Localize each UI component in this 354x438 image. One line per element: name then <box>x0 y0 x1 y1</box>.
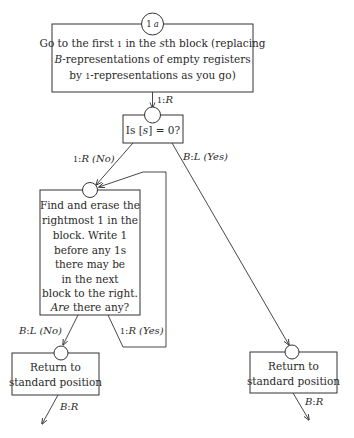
edge-label-decision-no: 1:R(No) <box>73 153 115 164</box>
box-top-line-3: by 1-representations as you go) <box>69 69 236 81</box>
loop-question: Are there any? <box>50 301 130 313</box>
svg-text:block. Write 1: block. Write 1 <box>53 229 127 241</box>
edge-loop-no <box>63 315 78 345</box>
svg-text:standard position: standard position <box>247 375 340 387</box>
decision-node <box>145 107 161 123</box>
svg-text:Return to: Return to <box>30 361 81 373</box>
box-top-line-2: B-representations of empty registers <box>53 53 250 65</box>
edge-exit-left <box>42 395 58 424</box>
edge-label-top-to-decision: 1:R <box>157 94 173 105</box>
svg-text:block to the right.: block to the right. <box>42 287 138 299</box>
svg-text:there may be: there may be <box>55 258 125 270</box>
edge-label-decision-yes: B:L(Yes) <box>182 151 228 162</box>
svg-text:Find and erase the: Find and erase the <box>40 199 140 211</box>
flowchart: Go to the first 1 in the sth block (repl… <box>0 0 354 438</box>
edge-label-exit-left: B:R <box>59 401 79 412</box>
loop-node <box>83 183 98 198</box>
return-left-node <box>54 346 68 360</box>
box-find-and-erase: Find and erase the rightmost 1 in the bl… <box>40 183 140 316</box>
svg-text:Is [s] = 0?: Is [s] = 0? <box>126 124 181 136</box>
decision-box-is-s-zero: Is [s] = 0? <box>123 107 183 143</box>
return-right-node <box>285 345 299 359</box>
svg-text:rightmost 1 in the: rightmost 1 in the <box>42 214 138 226</box>
svg-text:before any 1s: before any 1s <box>54 244 126 256</box>
box-top-line-1: Go to the first 1 in the sth block (repl… <box>40 37 266 49</box>
box-return-standard-left: Return to standard position <box>9 346 102 395</box>
edge-label-exit-right: B:R <box>304 396 324 407</box>
svg-text:standard position: standard position <box>9 376 102 388</box>
edge-decision-no <box>96 143 133 185</box>
svg-text:Return to: Return to <box>268 360 319 372</box>
edge-decision-yes <box>172 143 289 345</box>
edge-label-loop-yes: 1:R(Yes) <box>120 325 164 336</box>
svg-text:in the next: in the next <box>61 273 119 285</box>
box-return-standard-right: Return to standard position <box>247 345 340 393</box>
start-node-1a: 1a <box>142 13 164 35</box>
edge-label-loop-no: B:L(No) <box>18 325 62 336</box>
